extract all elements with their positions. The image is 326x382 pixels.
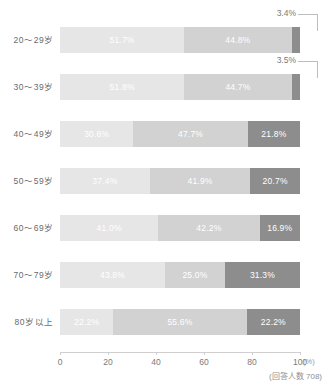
segment-value-label: 31.3% bbox=[250, 270, 275, 280]
bar-segment-3: 21.8% bbox=[248, 121, 300, 147]
segment-value-label: 21.8% bbox=[261, 129, 286, 139]
segment-value-label: 20.7% bbox=[263, 176, 288, 186]
bar-segment-3: 16.9% bbox=[260, 215, 301, 241]
segment-value-label: 30.6% bbox=[84, 129, 109, 139]
axis-tick bbox=[252, 352, 253, 355]
category-label: 40～49岁 bbox=[0, 121, 54, 147]
segment-value-label: 37.4% bbox=[92, 176, 117, 186]
segment-value-label: 51.8% bbox=[110, 82, 135, 92]
segment-value-label: 22.2% bbox=[261, 317, 286, 327]
segment-value-label: 41.9% bbox=[187, 176, 212, 186]
respondent-count-note: (回答人数 708) bbox=[269, 370, 322, 381]
segment-value-label: 55.6% bbox=[167, 317, 192, 327]
bar-segment-3: 20.7% bbox=[250, 168, 300, 194]
stacked-bar: 30.6%47.7%21.8% bbox=[60, 121, 300, 147]
axis-tick bbox=[156, 352, 157, 355]
callout-leader-line-vertical bbox=[317, 61, 318, 78]
bar-segment-1: 43.8% bbox=[60, 262, 165, 288]
segment-value-label: 42.2% bbox=[196, 223, 221, 233]
category-label: 60～69岁 bbox=[0, 215, 54, 241]
bar-segment-2: 42.2% bbox=[158, 215, 259, 241]
segment-value-label: 44.7% bbox=[225, 82, 250, 92]
x-axis: 020406080100 (%) (回答人数 708) bbox=[0, 352, 326, 382]
callout-value-label: 3.5% bbox=[277, 55, 296, 65]
stacked-bar-chart: 20～29岁51.7%44.8%3.4%3.4%30～39岁51.8%44.7%… bbox=[0, 0, 326, 382]
callout-leader-line-horizontal bbox=[298, 14, 318, 15]
bar-segment-1: 37.4% bbox=[60, 168, 150, 194]
bar-segment-1: 30.6% bbox=[60, 121, 133, 147]
category-label: 50～59岁 bbox=[0, 168, 54, 194]
bar-segment-2: 25.0% bbox=[165, 262, 225, 288]
callout-value-label: 3.4% bbox=[277, 8, 296, 18]
bar-segment-2: 47.7% bbox=[133, 121, 247, 147]
segment-value-label: 16.9% bbox=[267, 223, 292, 233]
chart-row: 40～49岁30.6%47.7%21.8% bbox=[0, 121, 326, 147]
axis-tick-label: 60 bbox=[199, 357, 208, 367]
bar-segment-2: 41.9% bbox=[150, 168, 251, 194]
segment-value-label: 43.8% bbox=[100, 270, 125, 280]
axis-tick bbox=[108, 352, 109, 355]
bar-segment-3: 22.2% bbox=[247, 309, 300, 335]
axis-tick-label: 20 bbox=[103, 357, 112, 367]
chart-row: 70～79岁43.8%25.0%31.3% bbox=[0, 262, 326, 288]
stacked-bar: 22.2%55.6%22.2% bbox=[60, 309, 300, 335]
chart-row: 60～69岁41.0%42.2%16.9% bbox=[0, 215, 326, 241]
segment-value-label: 22.2% bbox=[74, 317, 99, 327]
bar-segment-1: 22.2% bbox=[60, 309, 113, 335]
value-callout: 3.5% bbox=[0, 55, 326, 79]
chart-row: 80岁以上22.2%55.6%22.2% bbox=[0, 309, 326, 335]
category-label: 70～79岁 bbox=[0, 262, 54, 288]
axis-tick-label: 40 bbox=[151, 357, 160, 367]
chart-row: 50～59岁37.4%41.9%20.7% bbox=[0, 168, 326, 194]
bar-segment-2: 55.6% bbox=[113, 309, 246, 335]
callout-leader-line-vertical bbox=[317, 14, 318, 31]
axis-tick bbox=[60, 352, 61, 355]
stacked-bar: 43.8%25.0%31.3% bbox=[60, 262, 300, 288]
axis-line bbox=[60, 352, 300, 353]
callout-leader-line-horizontal bbox=[298, 61, 318, 62]
segment-value-label: 47.7% bbox=[178, 129, 203, 139]
axis-tick-label: 0 bbox=[58, 357, 63, 367]
bar-segment-1: 41.0% bbox=[60, 215, 158, 241]
value-callout: 3.4% bbox=[0, 8, 326, 32]
axis-tick-label: 80 bbox=[247, 357, 256, 367]
segment-value-label: 25.0% bbox=[182, 270, 207, 280]
axis-tick bbox=[204, 352, 205, 355]
axis-tick bbox=[300, 352, 301, 355]
axis-unit-label: (%) bbox=[303, 357, 315, 366]
category-label: 80岁以上 bbox=[0, 309, 54, 335]
bar-segment-3: 31.3% bbox=[225, 262, 300, 288]
segment-value-label: 51.7% bbox=[109, 35, 134, 45]
segment-value-label: 44.8% bbox=[225, 35, 250, 45]
stacked-bar: 37.4%41.9%20.7% bbox=[60, 168, 300, 194]
segment-value-label: 41.0% bbox=[97, 223, 122, 233]
stacked-bar: 41.0%42.2%16.9% bbox=[60, 215, 300, 241]
